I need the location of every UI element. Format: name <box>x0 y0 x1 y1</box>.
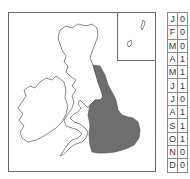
month-label: F <box>168 26 178 39</box>
monthly-occurrence-table: J0 F0 M0 A1 M1 J1 J0 A1 S1 O1 N0 D0 <box>167 12 188 173</box>
month-value: 0 <box>178 159 188 172</box>
month-label: M <box>168 39 178 52</box>
month-label: J <box>168 79 178 92</box>
month-value: 1 <box>178 79 188 92</box>
table-row: M1 <box>168 66 188 79</box>
month-label: D <box>168 159 178 172</box>
month-label: J <box>168 13 178 26</box>
table-row: A1 <box>168 52 188 65</box>
map-drawing <box>0 0 190 179</box>
inset-map-box <box>117 12 156 61</box>
month-value: 1 <box>178 132 188 145</box>
month-value: 1 <box>178 106 188 119</box>
table-row: N0 <box>168 145 188 158</box>
month-label: S <box>168 119 178 132</box>
table-row: J0 <box>168 13 188 26</box>
month-value: 0 <box>178 13 188 26</box>
month-label: J <box>168 92 178 105</box>
month-label: A <box>168 106 178 119</box>
month-value: 0 <box>178 92 188 105</box>
month-value: 1 <box>178 66 188 79</box>
shaded-distribution-area <box>88 65 140 153</box>
month-label: O <box>168 132 178 145</box>
table-row: O1 <box>168 132 188 145</box>
table-row: D0 <box>168 159 188 172</box>
month-label: A <box>168 52 178 65</box>
table-row: F0 <box>168 26 188 39</box>
month-value: 0 <box>178 39 188 52</box>
table-row: S1 <box>168 119 188 132</box>
ireland-outline <box>18 76 68 142</box>
table-row: M0 <box>168 39 188 52</box>
month-value: 0 <box>178 26 188 39</box>
table-row: J0 <box>168 92 188 105</box>
month-value: 1 <box>178 52 188 65</box>
month-label: N <box>168 145 178 158</box>
table-row: A1 <box>168 106 188 119</box>
month-value: 0 <box>178 145 188 158</box>
month-label: M <box>168 66 178 79</box>
table-row: J1 <box>168 79 188 92</box>
month-value: 1 <box>178 119 188 132</box>
